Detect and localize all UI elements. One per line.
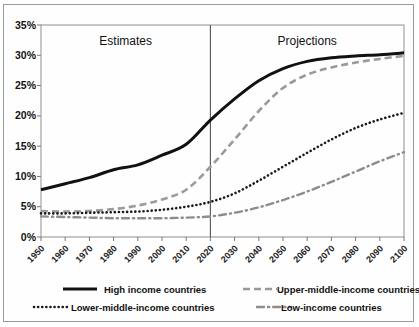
x-axis-tick-marks bbox=[41, 237, 404, 241]
x-axis-tick-label: 2000 bbox=[146, 243, 167, 264]
legend-item-1[interactable]: Upper-middle-income countries bbox=[243, 284, 419, 295]
legend-label-1: Upper-middle-income countries bbox=[277, 284, 419, 295]
legend-item-0[interactable]: High income countries bbox=[63, 284, 206, 295]
y-axis-tick-label: 25% bbox=[15, 79, 37, 91]
x-axis-tick-label: 1970 bbox=[74, 243, 95, 264]
y-axis-tick-label: 10% bbox=[15, 170, 37, 182]
y-axis-tick-labels: 0%5%10%15%20%25%30%35% bbox=[15, 19, 37, 243]
series-line-2 bbox=[41, 113, 404, 214]
legend-item-3[interactable]: Low-income countries bbox=[257, 302, 382, 313]
projections-region-label: Projections bbox=[278, 34, 337, 48]
x-axis-tick-label: 2080 bbox=[340, 243, 361, 264]
estimates-region-label: Estimates bbox=[99, 34, 152, 48]
x-axis-tick-label: 2040 bbox=[243, 243, 264, 264]
x-axis-tick-label: 2100 bbox=[388, 243, 409, 264]
y-axis-tick-label: 35% bbox=[15, 19, 37, 31]
chart-legend: High income countriesUpper-middle-income… bbox=[34, 284, 419, 313]
x-axis-tick-label: 1990 bbox=[122, 243, 143, 264]
series-line-0 bbox=[41, 53, 404, 190]
data-series-group bbox=[41, 53, 404, 218]
y-axis-tick-label: 30% bbox=[15, 49, 37, 61]
x-axis-tick-label: 1980 bbox=[98, 243, 119, 264]
x-axis-tick-label: 2010 bbox=[170, 243, 191, 264]
x-axis-tick-label: 2020 bbox=[195, 243, 216, 264]
x-axis-tick-label: 2070 bbox=[316, 243, 337, 264]
x-axis-tick-label: 2060 bbox=[291, 243, 312, 264]
x-axis-tick-label: 1950 bbox=[25, 243, 46, 264]
y-axis-tick-label: 20% bbox=[15, 109, 37, 121]
chart-svg: 0%5%10%15%20%25%30%35% 19501960197019801… bbox=[0, 0, 419, 327]
y-axis-tick-label: 15% bbox=[15, 140, 37, 152]
series-line-3 bbox=[41, 152, 404, 218]
x-axis-tick-label: 2030 bbox=[219, 243, 240, 264]
legend-item-2[interactable]: Lower-middle-income countries bbox=[34, 302, 215, 313]
y-axis-tick-marks bbox=[37, 25, 41, 237]
series-line-1 bbox=[41, 56, 404, 212]
x-axis-tick-label: 2050 bbox=[267, 243, 288, 264]
x-axis-tick-label: 1960 bbox=[49, 243, 70, 264]
legend-label-3: Low-income countries bbox=[281, 302, 382, 313]
legend-label-0: High income countries bbox=[104, 284, 206, 295]
population-aging-line-chart: 0%5%10%15%20%25%30%35% 19501960197019801… bbox=[0, 0, 419, 327]
x-axis-tick-labels: 1950196019701980199020002010202020302040… bbox=[25, 243, 409, 264]
x-axis-tick-label: 2090 bbox=[364, 243, 385, 264]
legend-label-2: Lower-middle-income countries bbox=[71, 302, 215, 313]
y-axis-tick-label: 0% bbox=[21, 231, 37, 243]
y-axis-tick-label: 5% bbox=[21, 200, 37, 212]
